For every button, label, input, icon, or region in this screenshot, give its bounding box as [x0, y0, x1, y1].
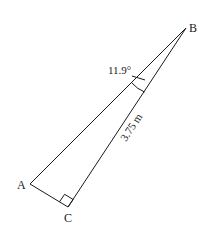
triangle-diagram: B A C 11.9° 3.75 m: [0, 0, 213, 238]
right-angle-marker: [60, 194, 74, 207]
angle-arc-b: [132, 83, 145, 93]
side-bc: [68, 28, 186, 207]
vertex-label-b: B: [189, 21, 197, 35]
side-ac: [30, 184, 68, 207]
vertex-label-a: A: [17, 178, 26, 192]
angle-label: 11.9°: [108, 64, 131, 76]
side-length-label: 3.75 m: [118, 111, 145, 143]
side-ab: [30, 28, 186, 184]
vertex-label-c: C: [64, 211, 72, 225]
